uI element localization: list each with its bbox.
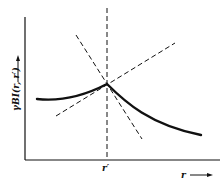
y-axis-label: γBI(r, r′) [11,54,23,124]
x-axis-label: r [181,170,186,180]
x-tick-label: r′ [102,163,109,173]
function-curve [37,84,201,135]
x-arrowhead-icon [207,173,213,177]
diagram-canvas [0,0,223,183]
rising-tangent-dashed [56,43,175,116]
